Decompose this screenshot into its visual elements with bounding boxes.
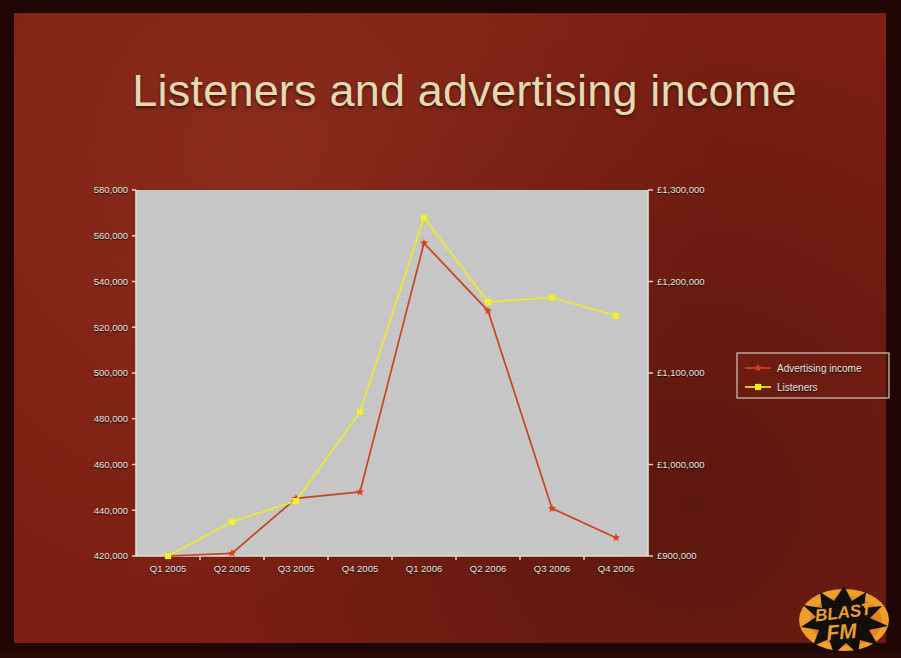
data-point-marker [293, 498, 299, 504]
line-chart: 420,000440,000460,000480,000500,000520,0… [14, 13, 901, 658]
left-axis-tick-label: 520,000 [94, 322, 128, 333]
data-point-marker [165, 553, 171, 559]
right-value-axis: £900,000£1,000,000£1,100,000£1,200,000£1… [648, 184, 705, 561]
left-axis-tick-label: 500,000 [94, 367, 128, 378]
category-axis-label: Q4 2006 [598, 563, 634, 574]
left-axis-tick-label: 460,000 [94, 459, 128, 470]
legend-marker [755, 384, 761, 390]
legend-label: Advertising income [777, 363, 862, 374]
category-axis-label: Q1 2005 [150, 563, 186, 574]
left-axis-tick-label: 440,000 [94, 505, 128, 516]
legend-label: Listeners [777, 382, 818, 393]
data-point-marker [549, 294, 555, 300]
right-axis-tick-label: £1,200,000 [657, 276, 705, 287]
data-point-marker [485, 299, 491, 305]
right-axis-tick-label: £1,000,000 [657, 459, 705, 470]
chart-legend: Advertising incomeListeners [737, 353, 889, 398]
logo-text-line2: FM [825, 619, 858, 645]
category-axis-label: Q2 2006 [470, 563, 506, 574]
left-axis-tick-label: 580,000 [94, 184, 128, 195]
right-axis-tick-label: £900,000 [657, 550, 697, 561]
left-value-axis: 420,000440,000460,000480,000500,000520,0… [94, 184, 136, 561]
category-axis-label: Q3 2005 [278, 563, 314, 574]
left-axis-tick-label: 480,000 [94, 413, 128, 424]
right-axis-tick-label: £1,300,000 [657, 184, 705, 195]
plot-area-background [136, 190, 648, 556]
left-axis-tick-label: 560,000 [94, 230, 128, 241]
category-axis-label: Q1 2006 [406, 563, 442, 574]
right-axis-tick-label: £1,100,000 [657, 367, 705, 378]
data-point-marker [357, 409, 363, 415]
category-axis-label: Q4 2005 [342, 563, 378, 574]
blast-fm-logo: BLAST FM [796, 585, 892, 655]
data-point-marker [421, 214, 427, 220]
data-point-marker [613, 313, 619, 319]
left-axis-tick-label: 540,000 [94, 276, 128, 287]
category-axis: Q1 2005Q2 2005Q3 2005Q4 2005Q1 2006Q2 20… [136, 556, 648, 574]
data-point-marker [229, 519, 235, 525]
category-axis-label: Q3 2006 [534, 563, 570, 574]
left-axis-tick-label: 420,000 [94, 550, 128, 561]
category-axis-label: Q2 2005 [214, 563, 250, 574]
